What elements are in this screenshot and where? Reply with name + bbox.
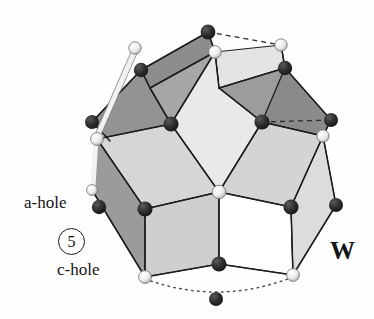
atom-light bbox=[209, 46, 222, 59]
label-w-site: W bbox=[330, 238, 355, 263]
figure-number-badge: 5 bbox=[58, 228, 85, 255]
atom-dark bbox=[137, 201, 152, 216]
atom-light bbox=[287, 269, 300, 282]
atom-dark bbox=[92, 200, 106, 214]
atom-light bbox=[139, 271, 152, 284]
atom-dark bbox=[163, 116, 178, 131]
label-c-hole: c-hole bbox=[57, 261, 99, 278]
atom-light bbox=[91, 133, 104, 146]
label-a-hole: a-hole bbox=[24, 194, 66, 211]
atom-light bbox=[317, 130, 329, 142]
atom-light bbox=[129, 42, 141, 54]
atom-dark bbox=[201, 25, 216, 40]
atom-light bbox=[87, 185, 98, 196]
atom-dark bbox=[324, 113, 338, 127]
atom-dark bbox=[329, 198, 343, 212]
atom-dark bbox=[254, 114, 269, 129]
atom-light bbox=[212, 185, 226, 199]
figure-number-text: 5 bbox=[68, 233, 76, 251]
atom-dark bbox=[134, 63, 148, 77]
atom-dark bbox=[85, 115, 99, 129]
atom-dark bbox=[278, 61, 292, 75]
figure-polyhedral-cluster: a-hole c-hole W 5 bbox=[0, 0, 374, 319]
atom-light bbox=[275, 39, 287, 51]
atom-dark bbox=[209, 292, 223, 306]
hidden-bottom-rim-dotted bbox=[145, 277, 293, 292]
atom-dark bbox=[211, 256, 226, 271]
atom-dark bbox=[283, 199, 298, 214]
